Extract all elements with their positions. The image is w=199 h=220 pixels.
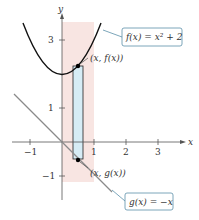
leader-f-callout [103, 30, 122, 37]
representative-rectangle [73, 66, 83, 159]
y-axis-label: y [57, 4, 64, 14]
point-g-label: (x, g(x)) [90, 168, 126, 178]
x-axis-label: x [188, 137, 193, 147]
point-f [76, 64, 80, 68]
point-g [76, 158, 80, 162]
leader-g-callout [112, 190, 125, 201]
tick-label-y-1: 1 [48, 103, 54, 113]
tick-label-x-2: 2 [123, 147, 129, 157]
tick-label-y-neg1: −1 [42, 171, 55, 181]
chart-figure: y x −1 1 2 3 3 1 −1 (x, f(x)) (x, g(x)) … [0, 0, 199, 220]
tick-label-y-3: 3 [48, 35, 54, 45]
g-callout-label: g(x) = −x [129, 197, 173, 207]
f-callout-label: f(x) = x² + 2 [125, 32, 183, 42]
tick-label-x-3: 3 [155, 147, 161, 157]
point-f-label: (x, f(x)) [90, 53, 124, 63]
tick-label-x-neg1: −1 [24, 147, 37, 157]
tick-label-x-1: 1 [91, 147, 97, 157]
x-axis-arrow-icon [180, 140, 186, 144]
